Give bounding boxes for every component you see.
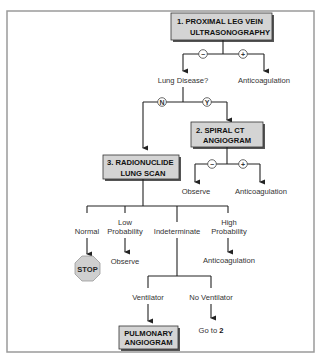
- label-high-probability-line2: Probability: [211, 227, 247, 236]
- label-observe-3: Observe: [111, 257, 140, 266]
- label-low-probability-line2: Probability: [107, 227, 143, 236]
- label-anticoagulation-2: Anticoagulation: [235, 187, 287, 196]
- marker-negative-1: −: [199, 50, 208, 59]
- marker-yes: Y: [203, 98, 212, 107]
- label-ventilator: Ventilator: [132, 293, 164, 302]
- marker-positive-1: +: [239, 50, 248, 59]
- label-anticoagulation-3: Anticoagulation: [203, 256, 255, 265]
- box-ultrasonography-line2: ULTRASONOGRAPHY: [190, 28, 270, 37]
- label-no-ventilator: No Ventilator: [189, 293, 233, 302]
- stop-label: STOP: [77, 265, 97, 274]
- label-normal: Normal: [75, 227, 100, 236]
- label-lung-disease: Lung Disease?: [158, 76, 209, 85]
- label-observe-2: Observe: [182, 187, 211, 196]
- svg-text:−: −: [210, 161, 214, 168]
- svg-text:Y: Y: [205, 99, 210, 106]
- svg-text:−: −: [201, 51, 205, 58]
- label-high-probability-line1: High: [221, 218, 237, 227]
- label-go-to-2: Go to 2: [199, 326, 224, 335]
- box-spiral-ct: 2. SPIRAL CT ANGIOGRAM: [191, 122, 265, 149]
- connectors-box1: [183, 40, 264, 71]
- box-lung-scan: 3. RADIONUCLIDE LUNG SCAN: [103, 155, 181, 181]
- label-low-probability-line1: Low: [118, 218, 132, 227]
- connectors-ventilator: [148, 304, 211, 321]
- connectors-box3: [87, 179, 228, 222]
- label-indeterminate: Indeterminate: [154, 227, 200, 236]
- flowchart-diagram: 1. PROXIMAL LEG VEIN ULTRASONOGRAPHY − +…: [0, 0, 322, 360]
- marker-positive-2: +: [239, 160, 248, 169]
- stop-sign-icon: STOP: [75, 256, 100, 281]
- label-anticoagulation-1: Anticoagulation: [238, 76, 290, 85]
- svg-text:N: N: [159, 99, 164, 106]
- svg-text:+: +: [241, 161, 245, 168]
- box-lung-scan-line2: LUNG SCAN: [120, 169, 165, 178]
- box-ultrasonography: 1. PROXIMAL LEG VEIN ULTRASONOGRAPHY: [171, 13, 274, 42]
- box-ultrasonography-line1: 1. PROXIMAL LEG VEIN: [177, 17, 263, 26]
- box-pulmonary-line2: ANGIOGRAM: [124, 338, 172, 347]
- box-pulmonary-angiogram: PULMONARY ANGIOGRAM: [119, 326, 180, 351]
- box-lung-scan-line1: 3. RADIONUCLIDE: [107, 158, 174, 167]
- connectors-box2: [195, 147, 260, 182]
- box-spiral-ct-line1: 2. SPIRAL CT: [196, 126, 245, 135]
- box-pulmonary-line1: PULMONARY: [124, 329, 173, 338]
- box-spiral-ct-line2: ANGIOGRAM: [203, 136, 251, 145]
- svg-text:+: +: [241, 51, 245, 58]
- marker-negative-2: −: [208, 160, 217, 169]
- marker-no: N: [158, 98, 167, 107]
